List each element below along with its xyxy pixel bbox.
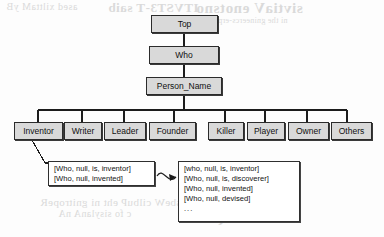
node-leaf-label: Inventor: [23, 127, 54, 136]
node-leaf-label: Leader: [112, 127, 138, 136]
node-leaf-label: Owner: [296, 127, 321, 136]
expansion-arrow-icon: [157, 173, 176, 181]
node-leaf-founder[interactable]: Founder: [149, 122, 196, 140]
annotation-box-right: [who, null, is, inventor] [Who, null, is…: [178, 161, 300, 222]
node-person-name-label: Person_Name: [157, 82, 211, 91]
node-leaf-killer[interactable]: Killer: [208, 122, 244, 140]
node-who-label: Who: [175, 51, 192, 60]
annotation-line: [Who, null, invented]: [184, 184, 295, 194]
edge-inventor-annotation: [32, 140, 48, 163]
node-leaf-owner[interactable]: Owner: [288, 122, 329, 140]
node-top[interactable]: Top: [151, 15, 218, 33]
node-leaf-inventor[interactable]: Inventor: [14, 122, 63, 140]
node-person-name[interactable]: Person_Name: [146, 77, 222, 95]
annotation-box-left: [Who, null, is, inventor] [Who, null, in…: [48, 161, 155, 186]
node-leaf-writer[interactable]: Writer: [64, 122, 102, 140]
diagram-canvas: ased xilttaM yB ITVST3-T saib sivtiaV en…: [0, 0, 384, 237]
node-leaf-label: Killer: [217, 127, 236, 136]
annotation-line: [Who, null, invented]: [54, 174, 150, 184]
node-leaf-label: Player: [254, 127, 278, 136]
node-leaf-others[interactable]: Others: [331, 122, 372, 140]
node-who[interactable]: Who: [149, 46, 219, 64]
annotation-line: [who, null, is, inventor]: [184, 164, 295, 174]
annotation-line: [Who, null, devised]: [184, 194, 295, 204]
node-top-label: Top: [178, 20, 192, 29]
node-leaf-label: Writer: [72, 127, 95, 136]
node-leaf-player[interactable]: Player: [247, 122, 285, 140]
node-leaf-label: Founder: [157, 127, 189, 136]
annotation-line: [Who, null, is, inventor]: [54, 164, 150, 174]
node-leaf-leader[interactable]: Leader: [104, 122, 146, 140]
annotation-line: [Who, null, is, discoverer]: [184, 174, 295, 184]
annotation-ellipsis: ...: [184, 204, 295, 214]
node-leaf-label: Others: [339, 127, 365, 136]
